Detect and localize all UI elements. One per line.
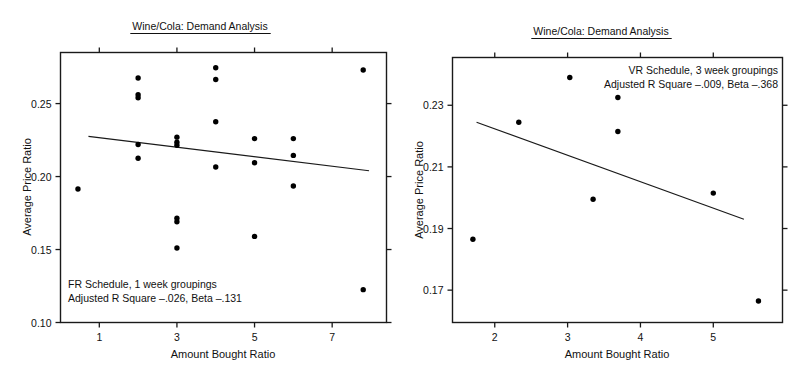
data-point [213,65,218,70]
x-tick-label: 5 [710,331,716,343]
y-tick-label: 0.17 [423,284,444,296]
x-tick-label: 4 [638,331,644,343]
data-point [135,142,140,147]
data-point [252,160,257,165]
data-point [615,129,620,134]
y-tick-label: 0.21 [423,161,444,173]
data-point [291,153,296,158]
data-point [756,298,761,303]
data-point [174,245,179,250]
chart-panel-right: Wine/Cola: Demand Analysis 23450.170.190… [401,0,802,381]
data-point [615,95,620,100]
scatter-chart-right: Wine/Cola: Demand Analysis 23450.170.190… [401,0,802,381]
figure-container: Wine/Cola: Demand Analysis 13570.100.150… [0,0,802,381]
x-tick-label: 3 [565,331,571,343]
x-axis-title: Amount Bought Ratio [565,348,670,360]
data-point [213,77,218,82]
data-point [590,197,595,202]
y-axis-title: Average Price Ratio [21,138,33,236]
axis-ticks [448,53,788,328]
data-point [291,136,296,141]
data-point [252,136,257,141]
data-point [291,183,296,188]
chart-title: Wine/Cola: Demand Analysis [132,20,267,32]
annotation-group: FR Schedule, 1 week groupingsAdjusted R … [68,278,242,304]
data-point [252,234,257,239]
x-tick-label: 3 [174,331,180,343]
annotation-line: FR Schedule, 1 week groupings [68,278,217,290]
data-point [135,95,140,100]
data-point [135,75,140,80]
annotation-line: Adjusted R Square –.009, Beta –.368 [604,78,778,90]
x-axis-title: Amount Bought Ratio [171,348,276,360]
y-tick-label: 0.20 [31,171,52,183]
regression-line [477,122,744,219]
scatter-chart-left: Wine/Cola: Demand Analysis 13570.100.150… [0,0,401,381]
data-points-group [75,65,366,292]
annotation-group: VR Schedule, 3 week groupingsAdjusted R … [604,64,778,90]
data-point [711,190,716,195]
data-point [75,186,80,191]
axis-tick-labels: 23450.170.190.210.23 [423,99,716,342]
y-tick-label: 0.10 [31,317,52,329]
chart-panel-left: Wine/Cola: Demand Analysis 13570.100.150… [0,0,401,381]
data-point [174,134,179,139]
data-point [470,237,475,242]
x-tick-label: 2 [492,331,498,343]
y-axis-title: Average Price Ratio [413,141,425,239]
axis-tick-labels: 13570.100.150.200.25 [31,98,335,343]
x-tick-label: 1 [96,331,102,343]
y-tick-label: 0.25 [31,98,52,110]
data-point [135,156,140,161]
data-point [213,119,218,124]
regression-line-group [88,136,369,170]
x-tick-label: 7 [329,331,335,343]
annotation-line: VR Schedule, 3 week groupings [629,64,778,76]
data-points-group [470,75,761,304]
data-point [567,75,572,80]
data-point [361,287,366,292]
annotation-line: Adjusted R Square –.026, Beta –.131 [68,292,242,304]
data-point [516,120,521,125]
y-tick-label: 0.23 [423,99,444,111]
y-tick-label: 0.15 [31,244,52,256]
data-point [361,67,366,72]
chart-title: Wine/Cola: Demand Analysis [533,25,668,37]
regression-line-group [477,122,744,219]
regression-line [88,136,369,170]
data-point [174,142,179,147]
y-tick-label: 0.19 [423,223,444,235]
data-point [213,164,218,169]
data-point [174,219,179,224]
x-tick-label: 5 [252,331,258,343]
